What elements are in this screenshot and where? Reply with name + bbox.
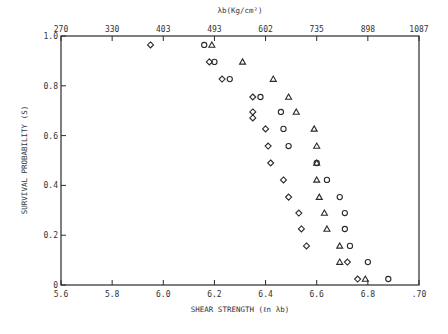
circle-marker bbox=[342, 226, 347, 231]
x-tick-label: 6.6 bbox=[309, 290, 324, 299]
y-tick-label: 1.0 bbox=[44, 32, 59, 41]
survival-probability-chart: 5.65.86.06.26.46.66.8.70 270330403493602… bbox=[0, 0, 448, 334]
x-tick-label: 6.4 bbox=[258, 290, 273, 299]
triangle-marker bbox=[337, 259, 343, 264]
circle-marker bbox=[286, 143, 291, 148]
triangle-marker bbox=[324, 226, 330, 231]
circle-marker bbox=[347, 243, 352, 248]
bottom-x-axis: 5.65.86.06.26.46.66.8.70 bbox=[54, 280, 427, 299]
top-axis-title: λb(Kg/cm²) bbox=[217, 6, 262, 15]
top-x-tick-label: 330 bbox=[105, 25, 120, 34]
y-tick-label: 0 bbox=[53, 281, 58, 290]
diamond-marker bbox=[303, 243, 309, 249]
y-axis-title: SURVIVAL PROBABILITY (S) bbox=[20, 106, 29, 214]
data-points bbox=[148, 42, 391, 282]
x-tick-label: 6.2 bbox=[207, 290, 222, 299]
top-x-tick-label: 403 bbox=[156, 25, 171, 34]
triangle-marker bbox=[316, 194, 322, 199]
diamond-marker bbox=[280, 177, 286, 183]
diamond-marker bbox=[250, 115, 256, 121]
x-tick-label: 5.6 bbox=[54, 290, 69, 299]
top-x-tick-label: 602 bbox=[258, 25, 273, 34]
top-x-tick-label: 493 bbox=[207, 25, 222, 34]
diamond-marker bbox=[268, 160, 274, 166]
diamond-marker bbox=[344, 259, 350, 265]
triangle-marker bbox=[286, 94, 292, 99]
top-x-tick-label: 735 bbox=[309, 25, 324, 34]
triangle-marker bbox=[314, 143, 320, 148]
diamond-marker bbox=[219, 76, 225, 82]
triangle-marker bbox=[209, 42, 215, 47]
triangle-marker bbox=[311, 126, 317, 131]
y-tick-label: 0.8 bbox=[44, 82, 59, 91]
x-axis-title: SHEAR STRENGTH (ℓn λb) bbox=[191, 305, 289, 314]
y-axis: 00.20.40.60.81.0 bbox=[44, 32, 66, 290]
x-tick-label: 5.8 bbox=[105, 290, 120, 299]
circle-marker bbox=[342, 210, 347, 215]
triangle-marker bbox=[362, 276, 368, 281]
x-tick-label: 6.8 bbox=[361, 290, 376, 299]
y-tick-label: 0.2 bbox=[44, 231, 59, 240]
y-tick-label: 0.6 bbox=[44, 132, 59, 141]
x-tick-label: 6.0 bbox=[156, 290, 171, 299]
diamond-marker bbox=[148, 42, 154, 48]
diamond-marker bbox=[263, 126, 269, 132]
diamond-marker bbox=[296, 210, 302, 216]
plot-frame bbox=[61, 36, 419, 285]
circle-marker bbox=[337, 195, 342, 200]
circle-marker bbox=[227, 76, 232, 81]
diamond-marker bbox=[265, 143, 271, 149]
circle-marker bbox=[324, 177, 329, 182]
diamond-marker bbox=[355, 276, 361, 282]
diamond-marker bbox=[250, 94, 256, 100]
circle-marker bbox=[365, 259, 370, 264]
circle-marker bbox=[278, 109, 283, 114]
triangle-marker bbox=[314, 177, 320, 182]
x-tick-label: .70 bbox=[412, 290, 427, 299]
diamond-marker bbox=[250, 109, 256, 115]
circle-marker bbox=[202, 42, 207, 47]
circle-marker bbox=[386, 276, 391, 281]
triangle-marker bbox=[337, 243, 343, 248]
circle-marker bbox=[281, 126, 286, 131]
diamond-marker bbox=[286, 194, 292, 200]
plot-border bbox=[61, 36, 419, 285]
triangle-marker bbox=[321, 210, 327, 215]
circle-marker bbox=[258, 94, 263, 99]
triangle-marker bbox=[293, 109, 299, 114]
top-x-axis: 2703304034936027358981087 bbox=[54, 25, 429, 41]
triangle-marker bbox=[240, 59, 246, 64]
diamond-marker bbox=[298, 226, 304, 232]
y-tick-label: 0.4 bbox=[44, 181, 59, 190]
top-x-tick-label: 898 bbox=[361, 25, 376, 34]
triangle-marker bbox=[270, 76, 276, 81]
top-x-tick-label: 1087 bbox=[409, 25, 428, 34]
